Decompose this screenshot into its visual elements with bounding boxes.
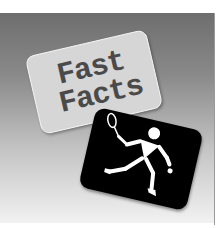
panel-edge <box>214 13 215 225</box>
